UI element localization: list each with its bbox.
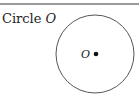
circle-diagram: O: [0, 0, 139, 97]
center-label: O: [81, 48, 90, 61]
center-point: [94, 52, 99, 57]
